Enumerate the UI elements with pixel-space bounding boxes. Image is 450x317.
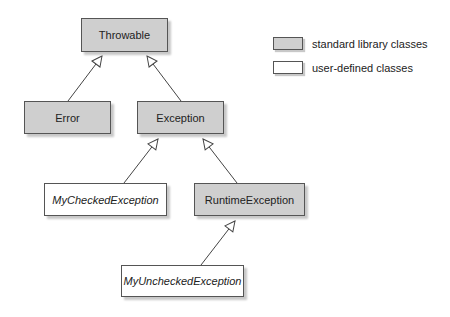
legend-label-user: user-defined classes bbox=[312, 62, 413, 74]
class-exception: Exception bbox=[137, 101, 224, 134]
class-my-checked-exception: MyCheckedException bbox=[44, 183, 167, 216]
class-throwable: Throwable bbox=[81, 18, 168, 52]
legend-label-standard: standard library classes bbox=[312, 38, 428, 50]
class-error: Error bbox=[24, 101, 111, 134]
legend-swatch-standard bbox=[273, 37, 303, 50]
legend-user: user-defined classes bbox=[273, 61, 413, 74]
legend-standard: standard library classes bbox=[273, 37, 428, 50]
class-my-unchecked-exception: MyUncheckedException bbox=[121, 265, 244, 297]
legend-swatch-user bbox=[273, 61, 303, 74]
class-runtime-exception: RuntimeException bbox=[194, 183, 305, 216]
